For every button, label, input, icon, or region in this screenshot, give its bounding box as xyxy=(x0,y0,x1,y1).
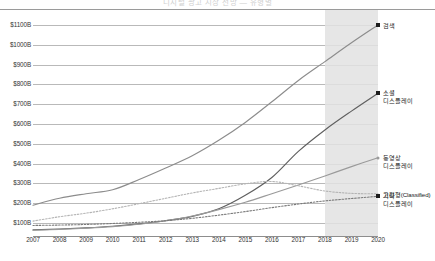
x-axis-tick-label: 2011 xyxy=(133,236,146,243)
x-axis-tick-label: 2009 xyxy=(79,236,93,243)
y-axis-tick-label: $400B xyxy=(1,160,31,167)
x-axis-tick-label: 2013 xyxy=(185,236,199,243)
chart-container: $1100B$1000B$900B$800B$700B$600B$500B$40… xyxy=(0,10,435,261)
y-axis-tick-label: $800B xyxy=(1,80,31,87)
x-axis-tick-label: 2015 xyxy=(238,236,252,243)
series-label-line2: 디스플레이 xyxy=(383,200,413,208)
chart-page: 디지털 광고 시장 전망 — 유형별 $1100B$1000B$900B$800… xyxy=(0,0,435,261)
x-axis-tick-label: 2018 xyxy=(318,236,332,243)
x-axis-tick-label: 2020 xyxy=(371,236,385,243)
series-label-1[interactable]: 소셜디스플레이 xyxy=(383,89,413,105)
series-label-4[interactable]: 기타디스플레이 xyxy=(383,192,413,208)
x-axis-tick-label: 2017 xyxy=(292,236,306,243)
x-axis-tick-label: 2019 xyxy=(345,236,359,243)
y-axis-tick-label: $300B xyxy=(1,179,31,186)
series-label-line1: 소셜 xyxy=(383,89,395,96)
series-label-2[interactable]: 동영상디스플레이 xyxy=(383,154,413,170)
x-axis-tick-label: 2007 xyxy=(26,236,40,243)
y-axis-tick-label: $600B xyxy=(1,120,31,127)
series-line-1 xyxy=(33,93,378,230)
plot-area: 검색소셜디스플레이동영상디스플레이고정형(Classified)기타디스플레이 xyxy=(33,19,378,231)
series-label-line1: 동영상 xyxy=(383,154,401,161)
series-end-marker xyxy=(376,194,380,198)
y-axis-tick-label: $700B xyxy=(1,100,31,107)
y-axis-tick-label: $900B xyxy=(1,61,31,68)
x-axis-tick-label: 2014 xyxy=(212,236,226,243)
y-axis-tick-label: $1100B xyxy=(1,21,31,28)
series-label-line1: 검색 xyxy=(383,22,395,29)
x-axis-tick-label: 2012 xyxy=(159,236,173,243)
y-axis-tick-label: $1000B xyxy=(1,41,31,48)
y-axis-tick-label: $200B xyxy=(1,199,31,206)
x-axis-tick-label: 2008 xyxy=(53,236,67,243)
y-axis: $1100B$1000B$900B$800B$700B$600B$500B$40… xyxy=(0,19,31,231)
cut-off-header-text: 디지털 광고 시장 전망 — 유형별 xyxy=(163,0,272,7)
series-line-4 xyxy=(33,196,378,225)
y-axis-tick-label: $100B xyxy=(1,219,31,226)
x-axis: 2007200820092010201120122013201420152016… xyxy=(33,236,378,248)
series-end-marker xyxy=(376,91,380,95)
x-axis-tick-label: 2016 xyxy=(265,236,279,243)
series-end-marker xyxy=(377,156,380,159)
series-label-line2: 디스플레이 xyxy=(383,97,413,105)
series-label-line2: 디스플레이 xyxy=(383,162,413,170)
x-axis-tick-label: 2010 xyxy=(106,236,120,243)
series-lines xyxy=(33,19,378,231)
y-axis-tick-label: $500B xyxy=(1,140,31,147)
series-end-marker xyxy=(376,23,380,27)
cut-off-header-strip: 디지털 광고 시장 전망 — 유형별 xyxy=(0,0,435,9)
series-label-0[interactable]: 검색 xyxy=(383,22,395,30)
series-line-0 xyxy=(33,25,378,205)
series-label-line1: 기타 xyxy=(383,192,395,199)
